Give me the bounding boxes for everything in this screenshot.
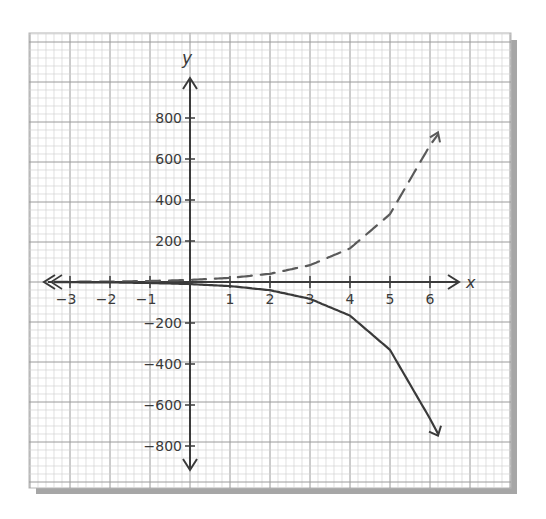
y-tick-label: −200	[144, 315, 182, 331]
x-tick-label: 3	[306, 291, 315, 307]
x-tick-label: −1	[136, 291, 157, 307]
y-axis-label: y	[181, 48, 193, 68]
y-tick-label: −600	[144, 397, 182, 413]
y-tick-label: −800	[144, 438, 182, 454]
graph-paper-chart: −3−2−1123456800600400200−200−400−600−800…	[0, 0, 546, 519]
x-axis-label: x	[465, 273, 476, 292]
y-tick-label: 200	[155, 233, 182, 249]
x-tick-label: 4	[346, 291, 355, 307]
y-tick-label: 600	[155, 151, 182, 167]
x-tick-label: 2	[266, 291, 275, 307]
y-tick-label: 800	[155, 110, 182, 126]
x-tick-label: −2	[96, 291, 117, 307]
y-tick-label: 400	[155, 192, 182, 208]
x-tick-label: 6	[426, 291, 435, 307]
x-tick-label: 5	[386, 291, 395, 307]
x-tick-label: −3	[56, 291, 77, 307]
y-tick-label: −400	[144, 356, 182, 372]
x-tick-label: 1	[226, 291, 235, 307]
